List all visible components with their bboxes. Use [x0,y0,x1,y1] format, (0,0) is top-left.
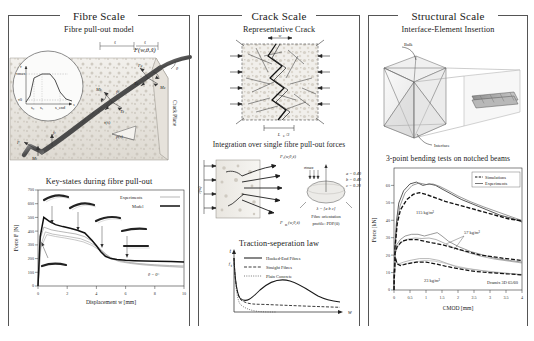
scale-title-fibre-text: Fibre Scale [67,10,131,22]
xtick-10: 10 [182,291,186,296]
moment-label-Mb: Mb [95,87,102,92]
keystates-chart: 0 100 200 300 400 500 600 700 0 2 4 6 8 [8,184,192,312]
force-label-Ta: Ta [134,81,138,86]
traction-legend: Hooked-End Fibres Straight Fibres Plain … [244,256,301,279]
param-c: c = 0.20 [346,183,362,188]
bending-xtick-3: 3 [489,295,491,300]
fibre-force-last-args: (w,θ,x̃) [288,220,300,226]
theta-annotation: θ = 0° [148,272,160,277]
crack-length-sub: e [283,133,285,138]
multiscale-figure: Fibre Scale Fibre pull-out model [0,0,534,341]
tau-label: τ(s) [104,120,111,125]
crack-length-half: /2 [286,132,289,137]
traction-xlabel: w [348,309,352,315]
bending-ytick-40: 40 [386,218,390,223]
param-a: a = 0.40 [346,171,362,176]
lambda-label: λ = [a b c] [315,206,335,211]
bending-xtick-25: 2.5 [471,295,476,300]
bending-ytick-20: 20 [386,253,390,258]
xtick-0: 0 [37,291,39,296]
bending-ytick-60: 60 [386,183,390,188]
xtick-6: 6 [125,291,127,296]
panel-structural: Interface-Element Insertion [368,22,528,319]
ytick-400: 400 [28,229,34,234]
bending-ytick-30: 30 [386,235,390,240]
ft-sub: t [231,263,233,268]
ytick-0: 0 [32,283,34,288]
moment-label-Ma: Ma [159,85,166,90]
bending-xtick-1: 1 [425,295,427,300]
crack-plane-label: Crack Plane [172,100,178,126]
inset-xtick-s0: s₀ [31,105,35,110]
interface-label: Interface [434,143,450,148]
legend-plain-concrete: Plain Concrete [266,274,292,279]
bending-ytick-50: 50 [386,200,390,205]
traction-ylabel: t [229,248,231,254]
bending-xtick-4: 4 [521,295,524,300]
force-label-Tb: Tb [120,109,124,114]
fibre-pullout-schematic: ŝ ŝ θ Fa Ta Ma [8,34,192,162]
bending-ytick-0: 0 [388,287,390,292]
bending-xtick-15: 1.5 [439,295,444,300]
fibre-diagram-title: Fibre pull-out model [8,25,190,34]
legend-experiments-bending: Experiments [485,181,507,186]
legend-experiments: Experiments [120,195,142,200]
legend-hooked-end: Hooked-End Fibres [266,256,301,261]
scale-column-structural: Structural Scale Interface-Element Inser… [366,8,530,319]
scale-title-structural-text: Structural Scale [405,10,490,22]
inset-xtick-send: s_end [55,105,66,110]
scale-column-fibre: Fibre Scale Fibre pull-out model [6,8,192,319]
orientation-caption-1: Fibre orientation [311,214,341,219]
fibre-force-last-label: F [279,220,283,225]
pressure-label: p(s) [115,134,123,139]
three-point-bending-chart: 0 10 20 30 40 50 60 0 0.5 1 1.5 [368,162,530,330]
keystates-xlabel: Displacement w [mm] [86,299,136,305]
xtick-4: 4 [95,291,98,296]
bending-xtick-0: 0 [393,295,395,300]
scale-column-crack: Crack Scale Representative Crack [196,8,362,319]
panel-fibre: Fibre pull-out model [8,22,190,319]
ytick-600: 600 [28,201,34,206]
slip-label-1: ŝ [114,40,116,45]
inset-tau-max: τmax [16,71,26,76]
xtick-8: 8 [154,291,156,296]
theta-label: θ [176,66,179,71]
hook-force-label: F [16,140,20,145]
traction-separation-chart: t w f t Hooked-End Fibres Straight Fibre… [198,246,362,328]
legend-model: Model [132,204,144,209]
slip-label-2: ŝ [144,40,146,45]
keystates-ylabel: Force F [N] [13,225,19,252]
hook-moment-label: Mc [31,156,38,161]
dosage-label-57: 57 kg/m³ [464,230,481,235]
crack-width-label: w [279,33,282,38]
bending-xlabel: CMOD [mm] [443,305,474,311]
scale-title-crack-text: Crack Scale [245,10,312,22]
orientation-caption-2: profile: PDF(θ) [312,221,340,226]
crack-length-label: L [277,132,281,137]
ytick-700: 700 [28,187,34,192]
param-b: b = 0.40 [346,177,362,182]
bending-legend: Simulations Experiments [472,172,520,187]
xtick-2: 2 [66,291,68,296]
inset-xlabel: s [73,102,75,107]
legend-simulations: Simulations [485,175,506,180]
inset-xtick-s1: s₁ [40,105,44,110]
fibre-force-first-label: F₁(w,θ,x̃) [279,154,297,160]
legend-straight: Straight Fibres [266,265,292,270]
dosage-label-23: 23 kg/m³ [424,278,441,283]
structural-diagram-title: Interface-Element Insertion [368,25,528,34]
ytick-500: 500 [28,215,34,220]
traction-label: t(w) [197,186,202,194]
bending-ytick-10: 10 [386,270,390,275]
interface-element-diagram: Bulk Interface [368,34,530,152]
integration-diagram: t(w) F₁(w,θ,x̃) F n (w,θ,x̃) [198,148,362,232]
dosage-label-115: 115 kg/m³ [416,210,435,215]
bulk-label: Bulk [404,42,413,47]
bending-xtick-2: 2 [457,295,459,300]
ytick-300: 300 [28,242,34,247]
sigma-max-label: σmax [304,165,314,170]
dramix-note: Dramix 3D 65/60 [487,280,519,285]
bending-xtick-35: 3.5 [503,295,508,300]
fibre-force-label: F(w,θ,x̃) [134,46,156,53]
force-label-Fa: Fa [137,63,143,68]
